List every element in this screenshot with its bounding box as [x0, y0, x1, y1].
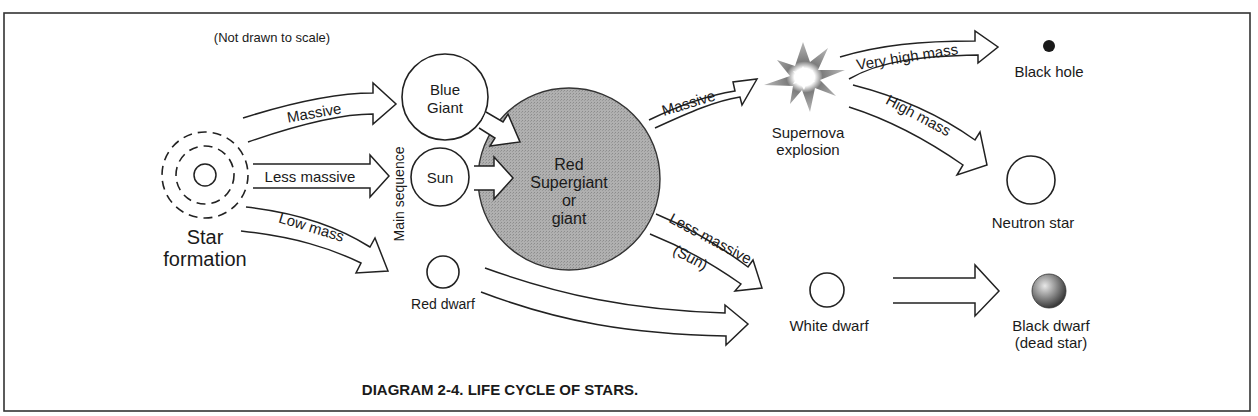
black-hole-icon: [1043, 40, 1055, 52]
not-to-scale-note: (Not drawn to scale): [214, 30, 330, 45]
figure-caption: DIAGRAM 2-4. LIFE CYCLE OF STARS.: [362, 381, 638, 398]
black-hole-label: Black hole: [1014, 63, 1083, 80]
star-formation-icon: [162, 132, 248, 218]
white-dwarf-label: White dwarf: [789, 317, 869, 334]
arrow-red-dwarf-to-white-dwarf: [481, 268, 748, 345]
supergiant-label-4: giant: [552, 210, 587, 227]
star-formation-label-1: Star: [187, 226, 224, 248]
supergiant-label-2: Supergiant: [530, 174, 608, 191]
red-dwarf-label: Red dwarf: [411, 296, 475, 312]
blue-giant-label-1: Blue: [430, 81, 460, 98]
red-dwarf-icon: [427, 256, 459, 288]
supernova-label-2: explosion: [776, 141, 839, 158]
white-dwarf-icon: [810, 273, 844, 307]
sun-label: Sun: [427, 169, 454, 186]
black-dwarf-label-1: Black dwarf: [1012, 317, 1090, 334]
arrow-low-mass-to-red-dwarf: [241, 207, 388, 273]
life-cycle-diagram: (Not drawn to scale) Star formation Mass…: [0, 0, 1258, 416]
star-formation-label-2: formation: [163, 248, 246, 270]
black-dwarf-icon: [1032, 274, 1066, 308]
supernova-label-1: Supernova: [772, 124, 845, 141]
neutron-star-label: Neutron star: [992, 214, 1075, 231]
supergiant-label-1: Red: [554, 156, 583, 173]
arrow-high-mass-to-neutron-star: [849, 85, 987, 175]
arrow-label-massive-2: Massive: [660, 87, 718, 119]
arrow-white-dwarf-to-black-dwarf: [893, 265, 999, 316]
black-dwarf-label-2: (dead star): [1015, 334, 1088, 351]
blue-giant-label-2: Giant: [427, 99, 464, 116]
main-sequence-label: Main sequence: [391, 146, 407, 241]
supergiant-label-3: or: [562, 192, 577, 209]
neutron-star-icon: [1007, 156, 1055, 204]
arrow-label-less-massive: Less massive: [265, 168, 356, 185]
